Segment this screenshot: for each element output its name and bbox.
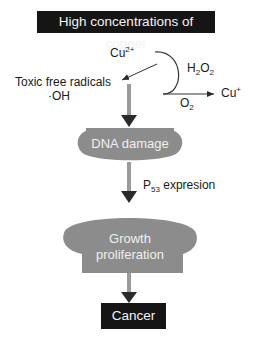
arrow-to-radicals <box>122 64 157 80</box>
o2-label: O2 <box>180 96 194 112</box>
shaft-3 <box>127 273 131 293</box>
cancer-text: Cancer <box>112 308 156 323</box>
arc-redox <box>155 52 179 94</box>
cancer-box: Cancer <box>101 303 166 329</box>
arrowhead-2 <box>121 191 137 203</box>
dna-damage-label: DNA damage <box>80 136 180 151</box>
toxic-radicals-label: Toxic free radicals ·OH <box>15 75 111 103</box>
shaft-2 <box>127 162 131 192</box>
p53-label: P53 expresion <box>143 178 215 194</box>
arrowhead-3 <box>121 292 137 303</box>
h2o2-label: H2O2 <box>187 61 214 77</box>
arrowhead-1 <box>121 115 137 127</box>
cu2-label: Cu2+ <box>110 45 134 60</box>
shaft-1 <box>127 84 131 116</box>
cu1-label: Cu+ <box>221 85 241 100</box>
growth-proliferation-label: Growth proliferation <box>80 231 180 263</box>
